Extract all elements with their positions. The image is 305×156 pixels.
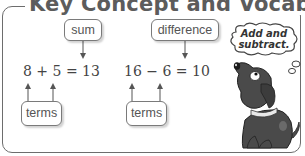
subtraction-equation: 16 − 6 = 10 [124, 63, 210, 79]
difference-label: difference [151, 19, 219, 41]
thought-line-2: subtract. [236, 39, 292, 50]
sum-label: sum [64, 19, 102, 41]
terms-label-left: terms [21, 101, 62, 126]
thought-bubble-text: Add and subtract. [236, 28, 292, 50]
thought-line-1: Add and [236, 28, 292, 39]
dog-mascot-icon [225, 60, 305, 152]
terms-label-right: terms [126, 101, 167, 126]
addition-equation: 8 + 5 = 13 [23, 63, 100, 79]
